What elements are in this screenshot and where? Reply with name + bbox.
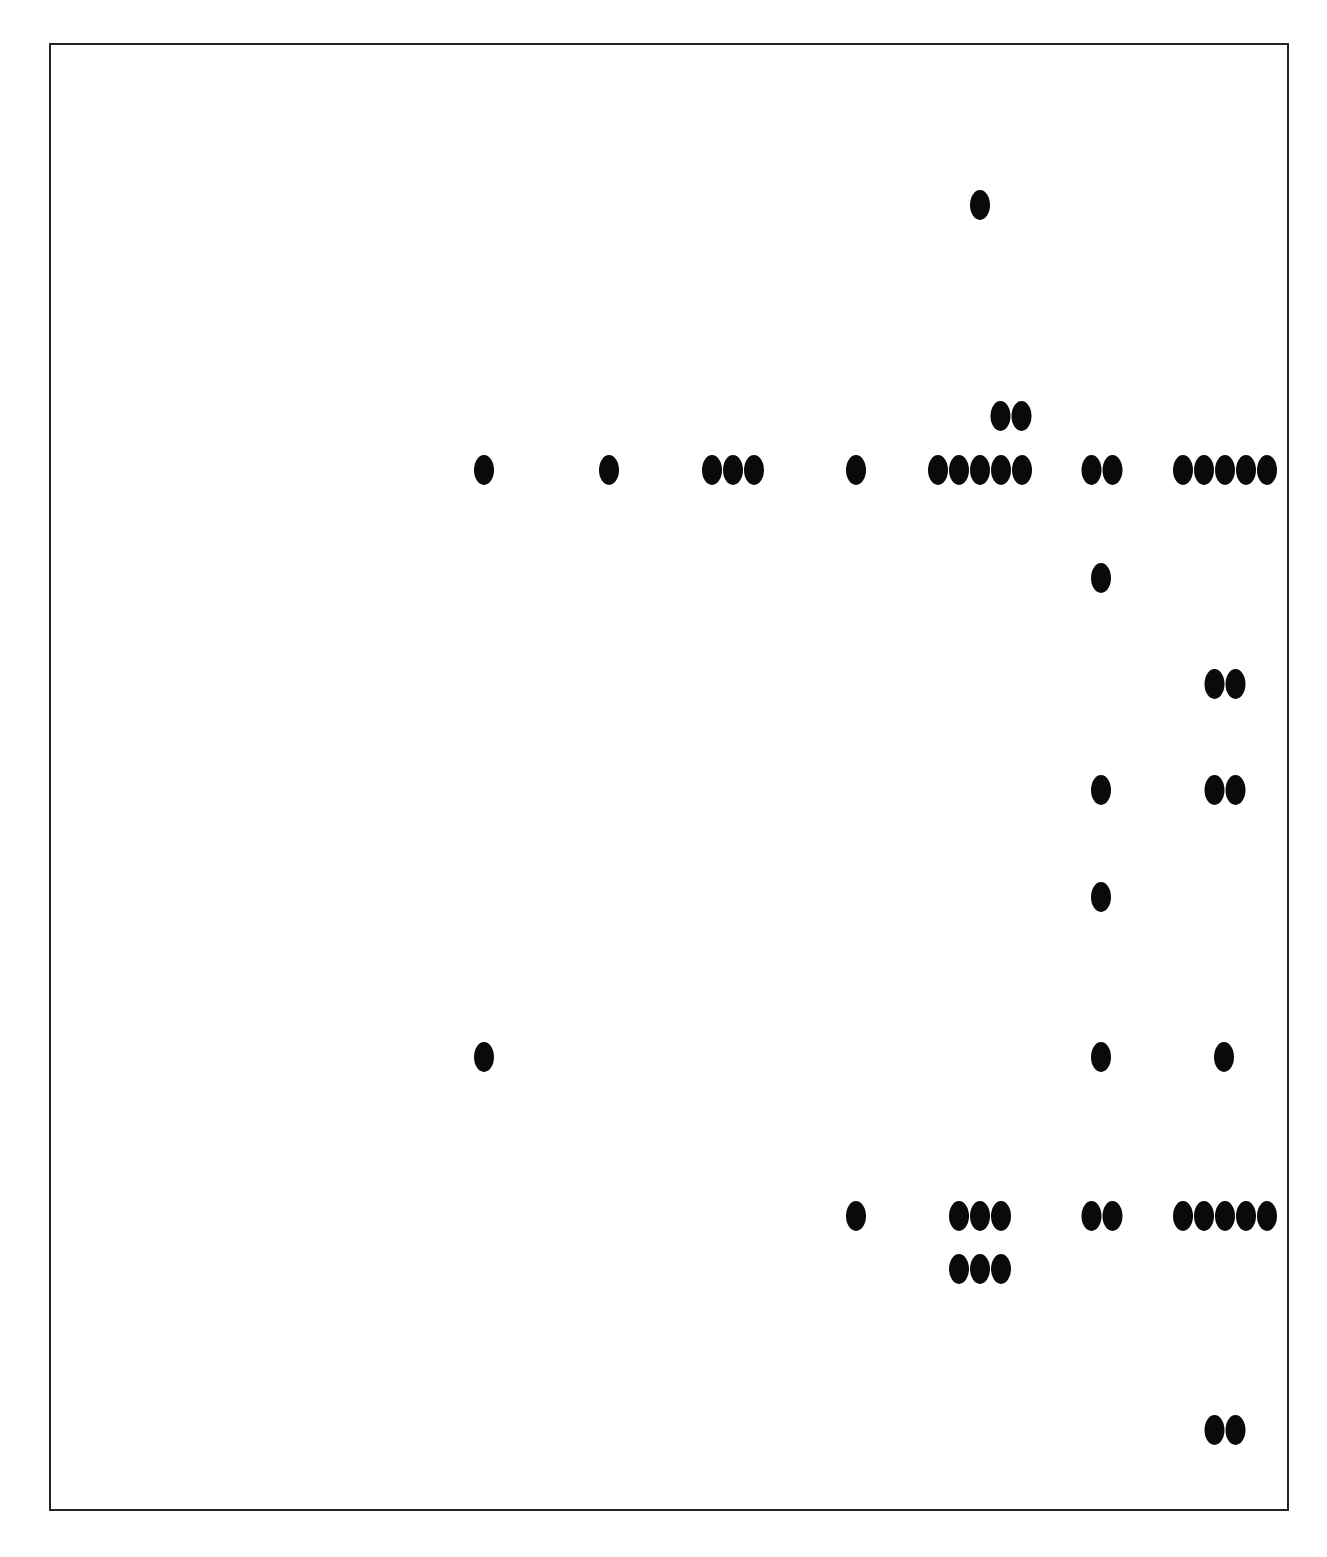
data-point-dot xyxy=(474,1042,494,1072)
data-point-dot xyxy=(1226,1415,1246,1445)
dot-group xyxy=(846,1201,866,1231)
data-point-dot xyxy=(846,1201,866,1231)
dot-group xyxy=(928,455,1032,485)
dot-group xyxy=(991,401,1032,431)
data-point-dot xyxy=(991,401,1011,431)
data-point-dot xyxy=(949,1254,969,1284)
data-point-dot xyxy=(1215,1201,1235,1231)
dot-group xyxy=(1091,563,1111,593)
data-point-dot xyxy=(1236,1201,1256,1231)
dot-group xyxy=(1205,1415,1246,1445)
data-point-dot xyxy=(702,455,722,485)
data-point-dot xyxy=(1091,563,1111,593)
data-point-dot xyxy=(949,455,969,485)
data-point-dot xyxy=(1091,1042,1111,1072)
data-point-dot xyxy=(949,1201,969,1231)
data-point-dot xyxy=(1215,455,1235,485)
dot-group xyxy=(1205,775,1246,805)
data-point-dot xyxy=(744,455,764,485)
data-point-dot xyxy=(991,455,1011,485)
data-point-dot xyxy=(970,1254,990,1284)
data-point-dot xyxy=(846,455,866,485)
data-point-dot xyxy=(1194,1201,1214,1231)
data-point-dot xyxy=(599,455,619,485)
dot-group xyxy=(474,455,494,485)
dot-group xyxy=(702,455,764,485)
dot-group xyxy=(1173,1201,1277,1231)
data-point-dot xyxy=(1205,669,1225,699)
data-point-dot xyxy=(1205,1415,1225,1445)
data-point-dot xyxy=(1173,455,1193,485)
data-point-dot xyxy=(970,455,990,485)
data-point-dot xyxy=(1226,775,1246,805)
data-point-dot xyxy=(1205,775,1225,805)
dot-group xyxy=(1082,1201,1123,1231)
data-point-dot xyxy=(970,1201,990,1231)
data-point-dot xyxy=(1091,882,1111,912)
dot-group xyxy=(1214,1042,1234,1072)
data-point-dot xyxy=(970,190,990,220)
dot-group xyxy=(1173,455,1277,485)
data-point-dot xyxy=(1257,1201,1277,1231)
data-point-dot xyxy=(1257,455,1277,485)
data-point-dot xyxy=(1214,1042,1234,1072)
dot-group xyxy=(949,1201,1011,1231)
dot-group xyxy=(1082,455,1123,485)
dot-group xyxy=(1091,1042,1111,1072)
dot-group xyxy=(970,190,990,220)
data-point-dot xyxy=(1226,669,1246,699)
data-point-dot xyxy=(1103,1201,1123,1231)
data-point-dot xyxy=(928,455,948,485)
dot-group xyxy=(599,455,619,485)
data-point-dot xyxy=(1091,775,1111,805)
dot-group xyxy=(474,1042,494,1072)
data-point-dot xyxy=(1103,455,1123,485)
data-point-dot xyxy=(1173,1201,1193,1231)
dot-group xyxy=(1091,775,1111,805)
data-point-dot xyxy=(991,1254,1011,1284)
data-point-dot xyxy=(1082,455,1102,485)
dot-group xyxy=(846,455,866,485)
data-point-dot xyxy=(1236,455,1256,485)
data-point-dot xyxy=(1012,455,1032,485)
dot-group xyxy=(949,1254,1011,1284)
data-point-dot xyxy=(991,1201,1011,1231)
data-point-dot xyxy=(723,455,743,485)
data-point-dot xyxy=(1082,1201,1102,1231)
data-point-dot xyxy=(474,455,494,485)
dot-group xyxy=(1091,882,1111,912)
data-point-dot xyxy=(1012,401,1032,431)
data-point-dot xyxy=(1194,455,1214,485)
dot-group xyxy=(1205,669,1246,699)
